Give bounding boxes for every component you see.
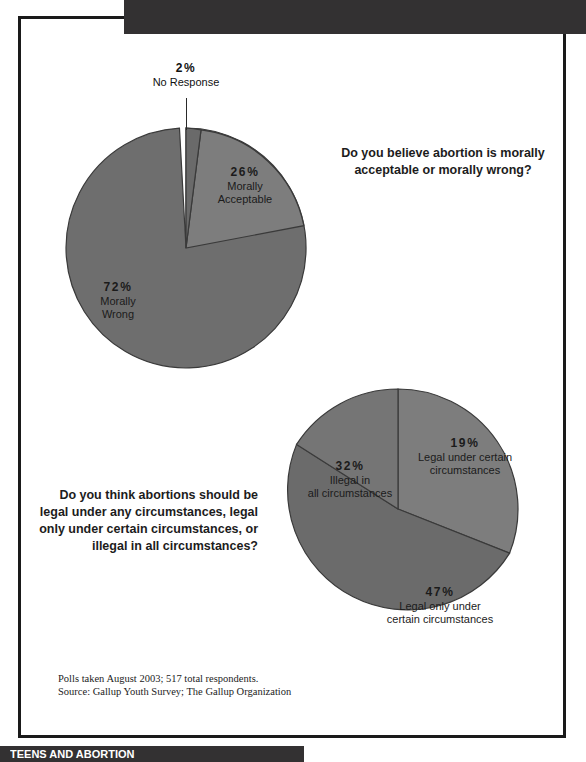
- label-morally-wrong-line1: Morally: [63, 295, 173, 308]
- label-illegal-all-line2: all circumstances: [280, 487, 420, 500]
- question-legality: Do you think abortions should be legal u…: [28, 487, 258, 555]
- label-no-response-pct: 2%: [126, 62, 246, 75]
- label-legal-only-under-certain-line2: certain circumstances: [355, 613, 525, 626]
- footer-band: TEENS AND ABORTION: [0, 746, 304, 762]
- question-morality: Do you believe abortion is morally accep…: [332, 145, 554, 179]
- source-line-1: Polls taken August 2003; 517 total respo…: [58, 672, 358, 685]
- label-illegal-all: 32% Illegal in all circumstances: [280, 460, 420, 500]
- label-legal-only-under-certain-pct: 47%: [355, 586, 525, 599]
- header-frame-mask: [124, 8, 586, 34]
- label-morally-acceptable-pct: 26%: [190, 166, 300, 179]
- label-illegal-all-line1: Illegal in: [280, 474, 420, 487]
- label-morally-wrong-pct: 72%: [63, 281, 173, 294]
- label-legal-only-under-certain: 47% Legal only under certain circumstanc…: [355, 586, 525, 626]
- label-legal-under-certain-pct: 19%: [385, 437, 545, 450]
- source-note: Polls taken August 2003; 517 total respo…: [58, 672, 358, 698]
- infographic-page: TEEN VIEWS ON ABORTION 2% No Response 26…: [0, 0, 586, 762]
- label-illegal-all-pct: 32%: [280, 460, 420, 473]
- source-line-2: Source: Gallup Youth Survey; The Gallup …: [58, 685, 358, 698]
- page-title: TEEN VIEWS ON ABORTION: [124, 0, 586, 4]
- label-morally-acceptable-line2: Acceptable: [190, 193, 300, 206]
- label-morally-acceptable: 26% Morally Acceptable: [190, 166, 300, 206]
- label-no-response-line1: No Response: [126, 76, 246, 89]
- label-legal-only-under-certain-line1: Legal only under: [355, 600, 525, 613]
- label-morally-acceptable-line1: Morally: [190, 180, 300, 193]
- morality-pie-chart: [65, 127, 307, 369]
- label-morally-wrong-line2: Wrong: [63, 308, 173, 321]
- no-response-leader-line: [186, 98, 187, 130]
- footer-title: TEENS AND ABORTION: [10, 746, 304, 762]
- label-no-response: 2% No Response: [126, 62, 246, 89]
- label-morally-wrong: 72% Morally Wrong: [63, 281, 173, 321]
